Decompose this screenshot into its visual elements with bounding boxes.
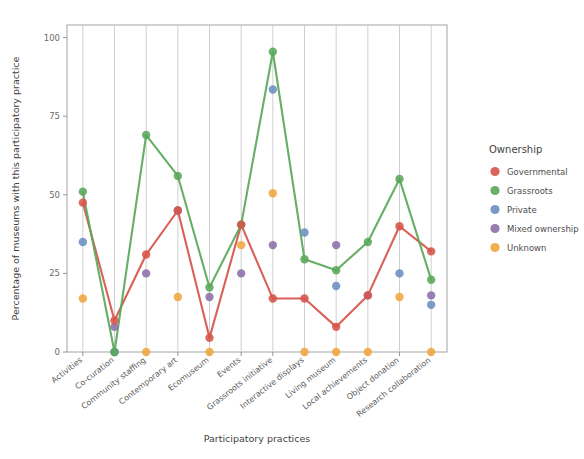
data-point: [142, 250, 150, 258]
data-point: [237, 220, 245, 228]
data-point: [269, 48, 277, 56]
data-point: [237, 269, 245, 277]
chart-container: 0255075100ActivitiesCo-curationCommunity…: [0, 0, 584, 459]
data-point: [79, 187, 87, 195]
data-point: [427, 301, 435, 309]
data-point: [364, 238, 372, 246]
data-point: [332, 282, 340, 290]
data-point: [174, 172, 182, 180]
y-tick-label: 75: [49, 111, 60, 121]
data-point: [427, 275, 435, 283]
legend-swatch[interactable]: [490, 243, 499, 252]
data-point: [364, 291, 372, 299]
data-point: [395, 222, 403, 230]
y-tick-label: 0: [55, 347, 60, 357]
legend-swatch[interactable]: [490, 186, 499, 195]
legend-swatch[interactable]: [490, 167, 499, 176]
data-point: [300, 255, 308, 263]
data-point: [395, 175, 403, 183]
data-point: [174, 293, 182, 301]
x-axis-title: Participatory practices: [204, 433, 311, 444]
data-point: [142, 131, 150, 139]
data-point: [300, 294, 308, 302]
x-tick-labels: ActivitiesCo-curationCommunity staffingC…: [50, 355, 433, 418]
data-point: [142, 269, 150, 277]
data-point: [332, 241, 340, 249]
data-point: [79, 238, 87, 246]
data-point: [332, 323, 340, 331]
y-tick-label: 25: [49, 268, 60, 278]
y-axis: 0255075100: [44, 33, 67, 357]
data-point: [79, 198, 87, 206]
data-point: [332, 266, 340, 274]
legend-swatch[interactable]: [490, 224, 499, 233]
data-point: [205, 283, 213, 291]
legend-swatch[interactable]: [490, 205, 499, 214]
data-point: [205, 334, 213, 342]
legend-item-label[interactable]: Private: [507, 205, 537, 215]
data-point: [205, 348, 213, 356]
legend-item-label[interactable]: Mixed ownership: [507, 224, 579, 234]
data-point: [300, 348, 308, 356]
data-point: [427, 247, 435, 255]
data-point: [269, 85, 277, 93]
data-point: [174, 206, 182, 214]
data-point: [427, 348, 435, 356]
data-point: [110, 348, 118, 356]
data-point: [364, 348, 372, 356]
data-point: [269, 294, 277, 302]
data-point: [79, 294, 87, 302]
data-point: [142, 348, 150, 356]
legend-title: Ownership: [489, 144, 542, 155]
data-point: [300, 228, 308, 236]
line-chart: 0255075100ActivitiesCo-curationCommunity…: [0, 0, 584, 459]
data-point: [395, 293, 403, 301]
y-tick-label: 100: [44, 33, 60, 43]
x-axis: [83, 352, 431, 356]
legend-item-label[interactable]: Grassroots: [507, 186, 553, 196]
data-point: [110, 316, 118, 324]
data-point: [237, 241, 245, 249]
data-point: [269, 189, 277, 197]
legend-item-label[interactable]: Unknown: [507, 243, 546, 253]
x-tick-label: Contemporary art: [117, 355, 179, 406]
data-point: [205, 293, 213, 301]
legend-item-label[interactable]: Governmental: [507, 167, 568, 177]
data-point: [269, 241, 277, 249]
x-tick-label: Events: [216, 355, 243, 379]
data-point: [427, 291, 435, 299]
y-axis-title: Percentage of museums with this particip…: [10, 56, 21, 320]
legend: OwnershipGovernmentalGrassrootsPrivateMi…: [489, 144, 579, 253]
data-point: [395, 269, 403, 277]
y-tick-label: 50: [49, 190, 60, 200]
data-point: [332, 348, 340, 356]
